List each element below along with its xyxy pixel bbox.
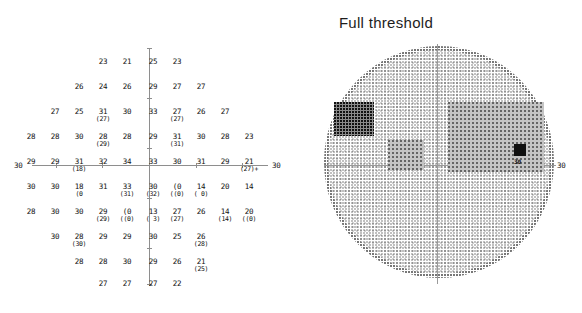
threshold-value: 29 — [214, 158, 236, 166]
threshold-cell: 20 — [214, 183, 236, 191]
threshold-value: 28 — [44, 133, 66, 141]
threshold-value: 34 — [116, 158, 138, 166]
threshold-value: 29 — [142, 133, 164, 141]
threshold-cell: 23 — [92, 58, 114, 66]
threshold-value: 30 — [20, 183, 42, 191]
threshold-value: 26 — [116, 83, 138, 91]
threshold-cell: 30 — [44, 208, 66, 216]
threshold-cell: 21(25) — [190, 258, 212, 273]
threshold-cell: 29 — [214, 158, 236, 166]
threshold-cell: 14 — [238, 183, 260, 191]
threshold-value: 25 — [166, 233, 188, 241]
threshold-cell: 31 — [190, 158, 212, 166]
field-defect-blind-spot — [514, 144, 526, 156]
threshold-cell: 28 — [20, 133, 42, 141]
threshold-cell: 28(29) — [92, 133, 114, 148]
threshold-cell: 28 — [116, 133, 138, 141]
threshold-cell: 18(0 — [68, 183, 90, 198]
threshold-cell: 30 — [190, 133, 212, 141]
threshold-retest-value: (27) — [166, 216, 188, 223]
threshold-cell: 31(31) — [166, 133, 188, 148]
threshold-cell: 31(18) — [68, 158, 90, 173]
threshold-cell: 31(27) — [92, 108, 114, 123]
threshold-value: 30 — [116, 258, 138, 266]
threshold-retest-value: ( 3) — [142, 216, 164, 223]
threshold-value: 30 — [116, 108, 138, 116]
threshold-value: 29 — [116, 233, 138, 241]
threshold-cell: 13( 3) — [142, 208, 164, 223]
greyscale-field-map: 30 30 — [318, 40, 566, 292]
threshold-cell: 27 — [166, 83, 188, 91]
threshold-value: 29 — [20, 158, 42, 166]
field-defect-central-halo — [388, 140, 424, 170]
threshold-cell: 24 — [92, 83, 114, 91]
threshold-cell: 29 — [142, 133, 164, 141]
threshold-value: 31 — [190, 158, 212, 166]
threshold-cell: 29 — [142, 258, 164, 266]
threshold-value: 23 — [238, 133, 260, 141]
threshold-retest-value: ( 0) — [190, 191, 212, 198]
threshold-retest-value: (30) — [68, 241, 90, 248]
threshold-cell: 28 — [44, 133, 66, 141]
threshold-cell: 14( 0) — [190, 183, 212, 198]
threshold-cell: 27 — [44, 108, 66, 116]
threshold-cell: 21 — [116, 58, 138, 66]
fieldmap-marker-label: 30 — [514, 158, 521, 165]
axis-tick — [147, 98, 152, 99]
threshold-cell: 30 — [68, 133, 90, 141]
threshold-cell: (0((0) — [166, 183, 188, 198]
threshold-cell: 30 — [44, 183, 66, 191]
threshold-cell: 26(28) — [190, 233, 212, 248]
threshold-cell: 23 — [166, 58, 188, 66]
threshold-value: 26 — [166, 258, 188, 266]
threshold-cell: 28 — [68, 258, 90, 266]
threshold-cell: 26 — [68, 83, 90, 91]
threshold-cell: 20((0) — [238, 208, 260, 223]
threshold-value: 30 — [68, 208, 90, 216]
threshold-cell: 26 — [190, 108, 212, 116]
threshold-value: 30 — [44, 233, 66, 241]
threshold-retest-value: (18) — [68, 166, 90, 173]
threshold-value: 26 — [190, 108, 212, 116]
threshold-cell: 29 — [116, 233, 138, 241]
threshold-value: 30 — [44, 208, 66, 216]
threshold-value: 24 — [92, 83, 114, 91]
threshold-cell: 22 — [166, 280, 188, 288]
threshold-retest-value: ((0) — [116, 216, 138, 223]
threshold-retest-value: (31) — [166, 141, 188, 148]
threshold-cell: 28 — [92, 258, 114, 266]
threshold-value: 21 — [116, 58, 138, 66]
page-title: Full threshold — [296, 14, 476, 31]
threshold-value: 28 — [20, 208, 42, 216]
threshold-value: 27 — [44, 108, 66, 116]
threshold-value: 29 — [44, 158, 66, 166]
threshold-cell: 26 — [166, 258, 188, 266]
threshold-value: 14 — [238, 183, 260, 191]
threshold-value: 32 — [92, 158, 114, 166]
threshold-cell: 30 — [44, 233, 66, 241]
threshold-value: 22 — [166, 280, 188, 288]
threshold-cell: 33(31) — [116, 183, 138, 198]
axis-tick — [147, 198, 152, 199]
threshold-cell: 30(32) — [142, 183, 164, 198]
threshold-value: 26 — [68, 83, 90, 91]
threshold-value: 28 — [20, 133, 42, 141]
threshold-retest-value: (25) — [190, 266, 212, 273]
threshold-retest-value: (27) — [166, 116, 188, 123]
threshold-value: 27 — [92, 280, 114, 288]
threshold-retest-value: (28) — [190, 241, 212, 248]
axis-tick — [147, 48, 152, 49]
threshold-cell: 26 — [116, 83, 138, 91]
threshold-value: 28 — [214, 133, 236, 141]
threshold-value: 30 — [142, 233, 164, 241]
threshold-value: 29 — [142, 258, 164, 266]
threshold-cell: 29(29) — [92, 208, 114, 223]
threshold-value: 27 — [166, 83, 188, 91]
axis-tick — [147, 248, 152, 249]
threshold-cell: 32 — [92, 158, 114, 166]
threshold-cell: 27 — [214, 108, 236, 116]
field-defect-temporal-wedge — [448, 102, 544, 172]
threshold-retest-value: (27)+ — [238, 166, 260, 173]
threshold-cell: 26 — [190, 208, 212, 216]
threshold-value: 30 — [166, 158, 188, 166]
